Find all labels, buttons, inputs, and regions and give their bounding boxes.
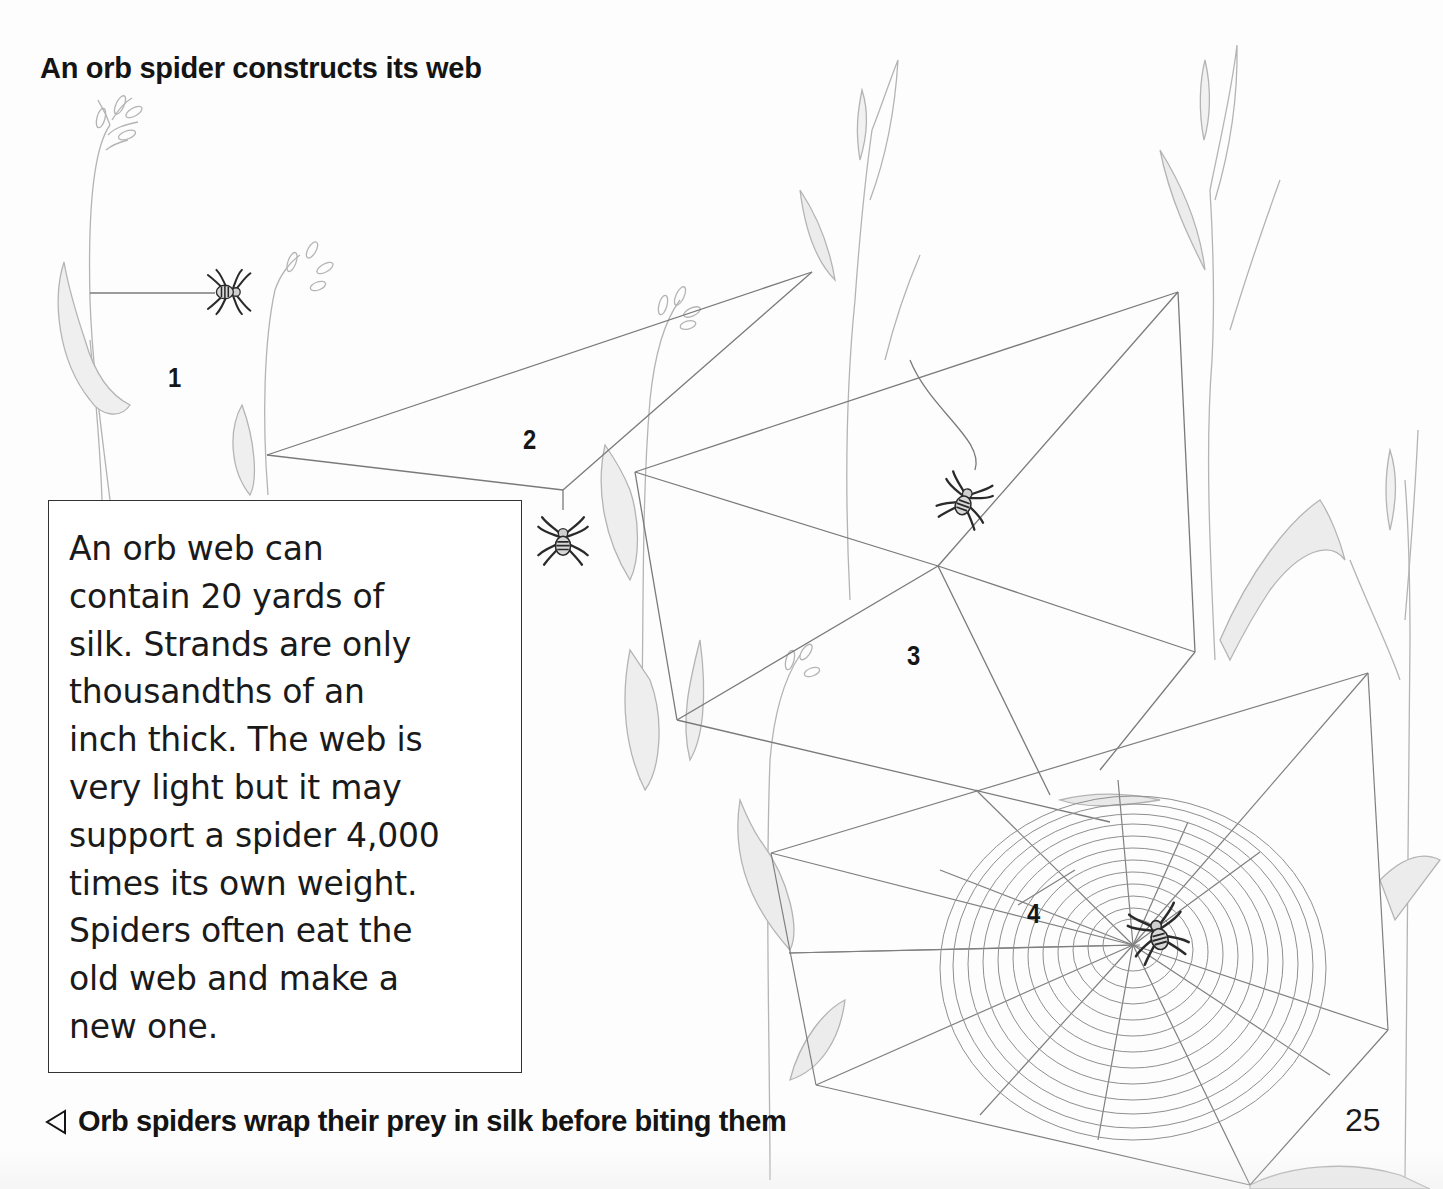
info-line: contain 20 yards of	[69, 573, 509, 621]
info-line: old web and make a	[69, 955, 509, 1003]
stage-label-4: 4	[1027, 898, 1040, 930]
stage-4-web	[771, 673, 1388, 1185]
stage-label-2: 2	[523, 424, 536, 456]
figure-caption: Orb spiders wrap their prey in silk befo…	[44, 1105, 786, 1138]
info-line: inch thick. The web is	[69, 716, 509, 764]
info-line: Spiders often eat the	[69, 907, 509, 955]
stage-3-threads	[635, 292, 1195, 822]
caption-text: Orb spiders wrap their prey in silk befo…	[78, 1105, 786, 1138]
scan-texture	[0, 1149, 1443, 1189]
stage-label-3: 3	[907, 640, 920, 672]
stage-4-spiral	[940, 796, 1326, 1140]
left-triangle-icon	[44, 1109, 68, 1135]
spider-stage-3-icon	[933, 470, 996, 532]
info-line: very light but it may	[69, 764, 509, 812]
info-line: An orb web can	[69, 525, 509, 573]
info-line: new one.	[69, 1003, 509, 1051]
book-page: An orb spider constructs its web 1 2 3 4…	[0, 0, 1443, 1189]
info-line: thousandths of an	[69, 668, 509, 716]
spider-stage-4-icon	[1125, 902, 1191, 967]
info-line: times its own weight.	[69, 860, 509, 908]
info-line: silk. Strands are only	[69, 621, 509, 669]
stage-2-threads	[267, 272, 812, 510]
spider-stage-1-icon	[208, 270, 251, 314]
info-box: An orb web can contain 20 yards of silk.…	[48, 500, 522, 1073]
page-number: 25	[1345, 1102, 1381, 1139]
page-title: An orb spider constructs its web	[40, 52, 482, 85]
stage-label-1: 1	[168, 362, 181, 394]
info-box-text: An orb web can contain 20 yards of silk.…	[69, 525, 509, 1051]
info-line: support a spider 4,000	[69, 812, 509, 860]
spider-stage-2-icon	[538, 517, 587, 565]
